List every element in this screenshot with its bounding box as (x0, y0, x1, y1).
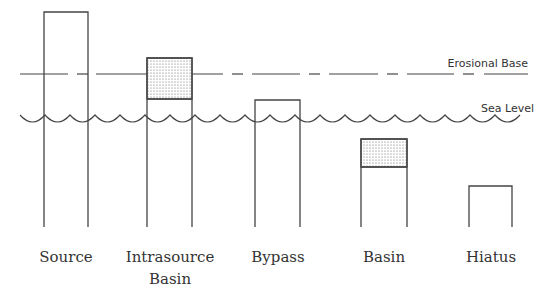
sea-level-label: Sea Level (481, 102, 534, 115)
label-intrasource: Intrasource (126, 248, 215, 266)
column-bypass (255, 100, 300, 227)
column-basin (361, 139, 407, 227)
label-bypass: Bypass (251, 248, 304, 266)
column-intrasource-basin (147, 58, 192, 227)
stipple-deposit (147, 58, 192, 99)
label-basin: Basin (363, 248, 405, 266)
sea-level-waves (20, 115, 520, 122)
column-hiatus (469, 186, 512, 227)
stipple-deposit (361, 139, 407, 167)
label-intrasource-basin: Basin (149, 270, 191, 288)
erosional-base-label: Erosional Base (447, 57, 528, 70)
label-hiatus: Hiatus (466, 248, 516, 266)
label-source: Source (39, 248, 93, 266)
depositional-setting-diagram: Erosional Base Sea Level Source Int (0, 0, 538, 297)
